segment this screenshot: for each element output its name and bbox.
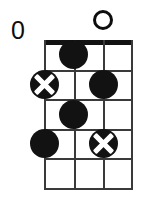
x-icon <box>89 129 118 158</box>
string-line-3 <box>103 40 105 188</box>
fret-line-5 <box>44 188 133 190</box>
finger-dot-string-3-fret-2 <box>89 70 118 99</box>
string-line-1 <box>44 40 46 188</box>
string-line-4 <box>131 40 133 188</box>
finger-dot-string-2-fret-3 <box>59 100 88 129</box>
string-markers-row <box>0 0 147 40</box>
fretboard-grid <box>44 40 133 188</box>
circled-x-dot-string-3-fret-4 <box>89 129 118 158</box>
fret-line-4 <box>44 158 133 160</box>
circled-x-dot-string-1-fret-2 <box>30 70 59 99</box>
x-icon <box>30 70 59 99</box>
finger-dot-string-2-fret-1 <box>59 40 88 69</box>
nut <box>44 40 133 45</box>
chord-diagram: 0 <box>0 0 147 197</box>
finger-dot-string-1-fret-4 <box>30 129 59 158</box>
open-string-circle-icon-string-3 <box>93 10 113 30</box>
fret-line-2 <box>44 99 133 101</box>
